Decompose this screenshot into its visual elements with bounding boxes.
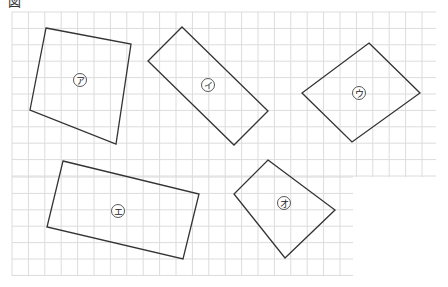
shape-5: オ: [234, 160, 335, 258]
shape-label: オ: [280, 199, 289, 209]
shape-label: ウ: [355, 89, 364, 99]
grid-lines: [12, 12, 436, 276]
shape-label: ア: [76, 76, 85, 86]
grid-figure: アイウエオ: [0, 0, 448, 287]
shape-label: イ: [204, 81, 213, 91]
shape-label: エ: [114, 207, 123, 217]
